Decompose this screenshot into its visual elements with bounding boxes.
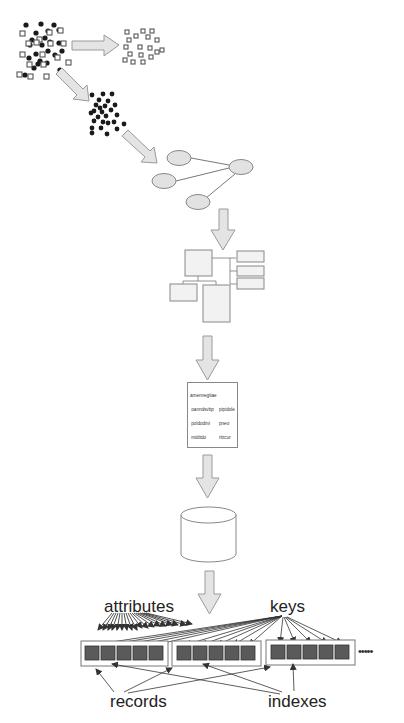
record-cell xyxy=(303,645,317,659)
document-text-right: pipidole pneo ritrcur ritfy mnnh mocdfo … xyxy=(219,385,235,448)
arrow-to-record-store xyxy=(198,571,221,614)
network-graph xyxy=(152,151,253,210)
filtered-squares-cluster xyxy=(123,29,164,64)
arrow-to-filtered-squares xyxy=(72,35,119,56)
network-node xyxy=(167,151,191,166)
schema-box xyxy=(237,266,264,276)
arrow-to-document xyxy=(196,336,219,380)
keys-label: keys xyxy=(270,598,305,615)
attributes-label: attributes xyxy=(104,598,174,615)
record-cell xyxy=(193,646,207,660)
records-label: records xyxy=(110,693,167,710)
network-hub-node xyxy=(229,160,253,175)
record-cell xyxy=(319,645,333,659)
arrow-to-filtered-dots xyxy=(56,68,89,101)
record-group xyxy=(172,641,261,666)
record-cell xyxy=(225,646,239,660)
record-cell xyxy=(335,645,349,659)
record-cell xyxy=(117,646,131,660)
pipeline-diagram xyxy=(0,0,404,723)
document-text-left: amennegitae oanndsvbp poldodmi miditdo m… xyxy=(190,385,217,448)
record-group xyxy=(266,640,355,665)
arrow-to-network xyxy=(122,130,157,163)
record-cell xyxy=(133,646,147,660)
schema-box xyxy=(203,285,230,322)
indexes-label: indexes xyxy=(268,693,327,710)
record-cell xyxy=(209,646,223,660)
schema-tree xyxy=(170,250,264,322)
record-cell xyxy=(271,645,285,659)
filtered-dots-cluster xyxy=(89,92,127,137)
record-cell xyxy=(101,646,115,660)
continuation-dots: ••••• xyxy=(358,646,372,657)
schema-box xyxy=(237,278,264,289)
record-cell xyxy=(149,646,163,660)
schema-box xyxy=(170,284,197,301)
network-node xyxy=(186,195,210,210)
record-cell xyxy=(85,646,99,660)
record-cell xyxy=(177,646,191,660)
database-cylinder xyxy=(181,507,236,562)
schema-box xyxy=(185,250,212,276)
record-cell xyxy=(287,645,301,659)
arrow-to-schema xyxy=(211,209,235,250)
record-arrows xyxy=(96,667,270,693)
record-group xyxy=(81,641,168,666)
text-document: amennegitae oanndsvbp poldodmi miditdo m… xyxy=(187,382,238,448)
schema-box xyxy=(237,251,264,262)
record-cell xyxy=(241,646,255,660)
arrow-to-database xyxy=(196,455,219,498)
network-node xyxy=(152,174,176,189)
